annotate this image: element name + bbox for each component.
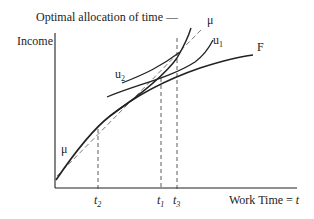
mu-top-label: μ [207,13,213,27]
mu-bottom-label: μ [61,142,67,156]
x-axis-label: Work Time = t [229,193,300,207]
diagram-title: Optimal allocation of time — [36,10,179,24]
time-allocation-diagram: Optimal allocation of time — Income μ u1… [0,0,314,219]
tick-t2: t2 [94,193,101,209]
F-curve [56,55,253,180]
y-axis-label: Income [17,34,53,48]
F-label: F [257,40,264,54]
upper-curve [110,28,191,116]
tick-t1: t1 [157,193,164,209]
u1-label: u1 [213,33,223,49]
u2-label: u2 [115,67,125,83]
u2-curve [122,52,180,83]
tick-t3: t3 [173,193,180,209]
